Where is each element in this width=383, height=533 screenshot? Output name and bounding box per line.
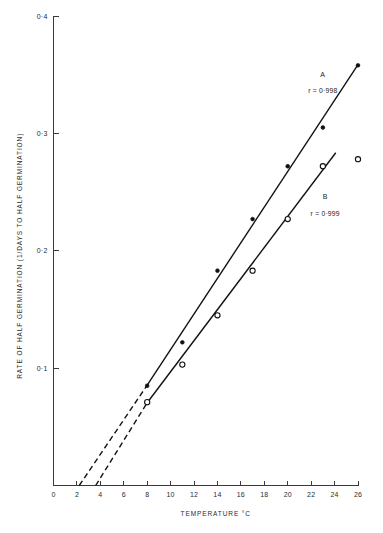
data-point-b-3 bbox=[250, 268, 255, 273]
series-a-extrapolation-line bbox=[79, 385, 147, 485]
y-axis-ticks bbox=[54, 16, 59, 368]
x-tick-label-14: 14 bbox=[213, 491, 221, 498]
y-axis-title: RATE OF HALF GERMINATION (1/DAYS TO HALF… bbox=[16, 133, 24, 379]
series-b-correlation-label: r = 0·999 bbox=[311, 210, 340, 217]
data-point-b-1 bbox=[180, 362, 185, 367]
x-axis-ticks bbox=[54, 481, 359, 486]
x-tick-label-24: 24 bbox=[330, 491, 338, 498]
data-point-b-0 bbox=[145, 400, 150, 405]
x-axis-title: TEMPERATURE °C bbox=[181, 510, 251, 517]
series-b bbox=[96, 153, 361, 486]
data-point-b-5 bbox=[320, 164, 325, 169]
x-tick-label-6: 6 bbox=[122, 491, 126, 498]
data-point-a-6 bbox=[356, 63, 360, 67]
x-tick-label-18: 18 bbox=[260, 491, 268, 498]
data-point-a-1 bbox=[180, 340, 184, 344]
germination-rate-chart: 0·4 0·3 0·2 0·1 02468101214161820222426 … bbox=[0, 0, 383, 533]
axis-group bbox=[54, 16, 359, 486]
series-a bbox=[79, 63, 360, 485]
data-point-a-3 bbox=[251, 217, 255, 221]
x-tick-label-26: 26 bbox=[354, 491, 362, 498]
data-point-b-6 bbox=[355, 157, 360, 162]
series-a-label: A bbox=[320, 71, 325, 78]
x-tick-label-2: 2 bbox=[75, 491, 79, 498]
series-a-correlation-label: r = 0·998 bbox=[308, 87, 337, 94]
series-b-label: B bbox=[323, 193, 328, 200]
data-point-a-0 bbox=[145, 384, 149, 388]
data-point-a-5 bbox=[321, 126, 325, 130]
series-b-extrapolation-line bbox=[96, 403, 148, 486]
y-tick-label-0-2: 0·2 bbox=[37, 247, 48, 254]
y-axis-tick-labels: 0·4 0·3 0·2 0·1 bbox=[37, 13, 48, 372]
x-tick-label-4: 4 bbox=[98, 491, 102, 498]
series-b-data-points bbox=[145, 157, 361, 405]
series-b-annotation: B r = 0·999 bbox=[311, 193, 340, 216]
x-tick-label-0: 0 bbox=[51, 491, 55, 498]
x-axis-tick-labels: 02468101214161820222426 bbox=[51, 491, 362, 498]
series-a-annotation: A r = 0·998 bbox=[308, 71, 337, 94]
y-tick-label-0-1: 0·1 bbox=[37, 365, 48, 372]
data-point-a-2 bbox=[216, 269, 220, 273]
data-point-b-4 bbox=[285, 216, 290, 221]
data-point-b-2 bbox=[215, 313, 220, 318]
series-a-fit-line bbox=[147, 65, 358, 385]
x-tick-label-8: 8 bbox=[145, 491, 149, 498]
y-tick-label-0-4: 0·4 bbox=[37, 13, 48, 20]
x-tick-label-16: 16 bbox=[237, 491, 245, 498]
series-b-fit-line bbox=[147, 153, 336, 403]
x-tick-label-22: 22 bbox=[307, 491, 315, 498]
y-tick-label-0-3: 0·3 bbox=[37, 130, 48, 137]
x-tick-label-12: 12 bbox=[190, 491, 198, 498]
x-tick-label-10: 10 bbox=[167, 491, 175, 498]
chart-canvas: 0·4 0·3 0·2 0·1 02468101214161820222426 … bbox=[0, 0, 383, 533]
data-point-a-4 bbox=[286, 164, 290, 168]
x-tick-label-20: 20 bbox=[284, 491, 292, 498]
